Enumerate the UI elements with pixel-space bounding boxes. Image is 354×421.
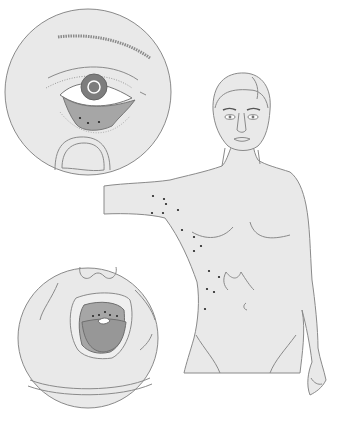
mouth-inset — [18, 267, 158, 408]
lesion-dot — [104, 311, 106, 313]
lesion-dot — [98, 121, 100, 123]
lesion-dot — [204, 308, 206, 310]
illustration-canvas — [0, 0, 354, 421]
lesion-dot — [193, 250, 195, 252]
lesion-dot — [193, 236, 195, 238]
lesion-dot — [208, 270, 210, 272]
lesion-dot — [165, 203, 167, 205]
lesion-dot — [87, 122, 89, 124]
lesion-dot — [206, 288, 208, 290]
eye-inset — [5, 9, 171, 175]
lesion-dot — [181, 229, 183, 231]
lesion-dot — [151, 212, 153, 214]
lesion-dot — [200, 245, 202, 247]
lesion-dot — [116, 315, 118, 317]
lesion-dot — [92, 315, 94, 317]
lesion-dot — [79, 117, 81, 119]
lesion-dot — [218, 276, 220, 278]
lesion-dot — [177, 209, 179, 211]
lesion-dot — [152, 195, 154, 197]
medical-illustration — [0, 0, 354, 421]
lesion-dot — [163, 198, 165, 200]
lesion-dot — [213, 291, 215, 293]
head — [213, 73, 270, 151]
lesion-dot — [162, 212, 164, 214]
lesion-dot — [98, 314, 100, 316]
lesion-dot — [109, 314, 111, 316]
pupil-ring — [88, 81, 100, 93]
